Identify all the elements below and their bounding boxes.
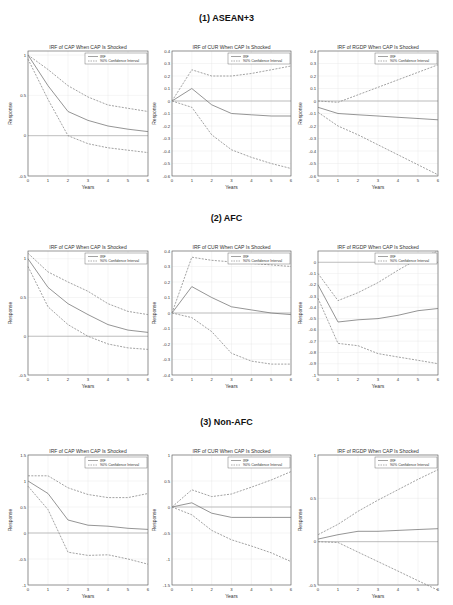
svg-text:0: 0 [314, 260, 317, 265]
svg-text:4: 4 [397, 377, 400, 382]
svg-text:-0.1: -0.1 [309, 111, 317, 116]
svg-text:IRF: IRF [243, 459, 250, 463]
svg-text:6: 6 [290, 587, 293, 592]
svg-text:1: 1 [24, 479, 27, 484]
chart-title: IRF of CAP When CAP Is Shocked [49, 44, 127, 50]
svg-text:0: 0 [27, 587, 30, 592]
svg-text:6: 6 [147, 178, 150, 183]
svg-text:6: 6 [437, 377, 440, 382]
svg-text:IRF: IRF [100, 55, 107, 59]
svg-text:IRF: IRF [100, 459, 107, 463]
y-axis-label: Response [151, 302, 157, 325]
svg-text:3: 3 [87, 587, 90, 592]
svg-text:1: 1 [337, 377, 340, 382]
svg-text:2: 2 [67, 587, 70, 592]
y-axis-label: Response [151, 509, 157, 532]
svg-text:-0.7: -0.7 [309, 339, 317, 344]
svg-text:-0.8: -0.8 [309, 350, 317, 355]
x-axis-label: Years [225, 593, 238, 599]
svg-text:3: 3 [377, 587, 380, 592]
chart-legend: IRF90% Confidence Interval [85, 53, 147, 64]
chart-title: IRF of CAP When CAP Is Shocked [49, 244, 127, 250]
chart-title: IRF of RGDP When CAP Is Shocked [337, 244, 419, 250]
svg-text:-0.5: -0.5 [163, 161, 171, 166]
svg-text:-0.4: -0.4 [163, 149, 171, 154]
svg-text:2: 2 [357, 377, 360, 382]
chart-legend: IRF90% Confidence Interval [85, 253, 147, 264]
svg-text:0.4: 0.4 [164, 249, 170, 254]
chart-title: IRF of RGDP When CAP Is Shocked [337, 448, 419, 454]
y-axis-label: Response [151, 102, 157, 125]
svg-text:1: 1 [24, 256, 27, 261]
svg-text:0: 0 [24, 531, 27, 536]
svg-text:1: 1 [47, 587, 50, 592]
svg-text:2: 2 [357, 178, 360, 183]
svg-text:-0.5: -0.5 [163, 531, 171, 536]
svg-text:4: 4 [397, 178, 400, 183]
svg-text:-0.5: -0.5 [309, 161, 317, 166]
svg-text:-0.2: -0.2 [163, 124, 171, 129]
chart-title: IRF of RGDP When CAP Is Shocked [337, 44, 419, 50]
svg-text:0: 0 [314, 539, 317, 544]
svg-text:-0.2: -0.2 [309, 282, 317, 287]
svg-text:-0.3: -0.3 [163, 136, 171, 141]
svg-text:0.1: 0.1 [164, 86, 170, 91]
chart-legend: IRF90% Confidence Interval [228, 253, 290, 264]
x-axis-label: Years [225, 383, 238, 389]
chart-title: IRF of CUR When CAP Is Shocked [193, 448, 271, 454]
svg-text:-0.5: -0.5 [309, 583, 317, 588]
svg-text:0.5: 0.5 [164, 479, 170, 484]
svg-text:5: 5 [417, 377, 420, 382]
svg-text:-1.5: -1.5 [163, 583, 171, 588]
svg-text:4: 4 [107, 587, 110, 592]
svg-text:-0.6: -0.6 [309, 174, 317, 179]
svg-text:4: 4 [250, 178, 253, 183]
svg-text:1: 1 [24, 53, 27, 58]
chart-legend: IRF90% Confidence Interval [375, 457, 437, 468]
svg-text:90% Confidence Interval: 90% Confidence Interval [243, 259, 282, 263]
svg-text:0: 0 [314, 99, 317, 104]
x-axis-label: Years [372, 593, 385, 599]
svg-text:0: 0 [24, 133, 27, 138]
svg-text:4: 4 [250, 377, 253, 382]
chart-title: IRF of CAP When CAP Is Shocked [49, 448, 127, 454]
svg-text:2: 2 [210, 178, 213, 183]
svg-text:-0.5: -0.5 [309, 316, 317, 321]
irf-chart-grid: 0123456-0.500.51IRF of CAP When CAP Is S… [0, 0, 453, 605]
svg-text:5: 5 [127, 178, 130, 183]
svg-text:4: 4 [250, 587, 253, 592]
chart-legend: IRF90% Confidence Interval [85, 457, 147, 468]
svg-text:-0.9: -0.9 [309, 361, 317, 366]
x-axis-label: Years [225, 184, 238, 190]
svg-text:90% Confidence Interval: 90% Confidence Interval [100, 59, 139, 63]
chart-legend: IRF90% Confidence Interval [375, 53, 437, 64]
y-axis-label: Response [297, 509, 303, 532]
svg-text:0.5: 0.5 [310, 496, 316, 501]
svg-text:3: 3 [377, 377, 380, 382]
x-axis-label: Years [372, 184, 385, 190]
svg-text:0: 0 [317, 178, 320, 183]
svg-text:0: 0 [171, 587, 174, 592]
svg-text:0: 0 [171, 178, 174, 183]
svg-text:5: 5 [270, 377, 273, 382]
irf-panel: 0123456-0.4-0.3-0.2-0.100.10.20.30.4IRF … [151, 244, 293, 390]
y-axis-label: Response [7, 102, 13, 125]
x-axis-label: Years [82, 593, 95, 599]
chart-legend: IRF90% Confidence Interval [228, 457, 290, 468]
svg-text:2: 2 [210, 587, 213, 592]
svg-text:1: 1 [337, 587, 340, 592]
svg-text:5: 5 [127, 587, 130, 592]
svg-text:0.2: 0.2 [310, 74, 316, 79]
y-axis-label: Response [297, 302, 303, 325]
svg-text:0: 0 [317, 377, 320, 382]
svg-text:4: 4 [107, 377, 110, 382]
y-axis-label: Response [7, 509, 13, 532]
irf-panel: 0123456-0.500.51IRF of CAP When CAP Is S… [7, 44, 150, 191]
svg-text:6: 6 [147, 587, 150, 592]
svg-text:5: 5 [417, 587, 420, 592]
svg-text:2: 2 [67, 377, 70, 382]
chart-title: IRF of CUR When CAP Is Shocked [193, 44, 271, 50]
svg-text:0.2: 0.2 [164, 74, 170, 79]
svg-text:2: 2 [357, 587, 360, 592]
svg-text:6: 6 [147, 377, 150, 382]
